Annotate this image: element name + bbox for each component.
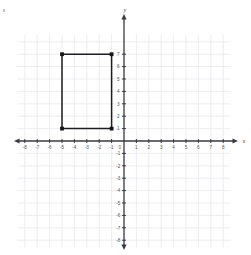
vertex-marker xyxy=(110,127,114,131)
y-tick-label: 4 xyxy=(117,89,120,94)
y-axis-arrow-up xyxy=(121,14,126,20)
x-tick-label: 5 xyxy=(185,145,188,150)
plot-area: -8-7-6-5-4-3-2-1012345678-8-7-6-5-4-3-2-… xyxy=(0,0,251,255)
x-tick-label: -4 xyxy=(72,145,77,150)
axis-names: xy xyxy=(123,7,246,145)
y-tick-label: 2 xyxy=(117,114,120,119)
y-tick-label: -4 xyxy=(116,188,121,193)
x-tick-label: -6 xyxy=(48,145,53,150)
x-tick-label: -5 xyxy=(60,145,65,150)
y-tick-label: -5 xyxy=(116,201,121,206)
x-tick-label: 2 xyxy=(148,145,151,150)
x-tick-label: -3 xyxy=(85,145,90,150)
y-tick-label: -3 xyxy=(116,176,121,181)
vertex-marker xyxy=(110,52,114,56)
x-axis-arrow-right xyxy=(233,138,239,143)
x-tick-label: 7 xyxy=(210,145,213,150)
x-tick-label: 6 xyxy=(197,145,200,150)
x-tick-label: -2 xyxy=(97,145,102,150)
y-tick-label: -7 xyxy=(116,226,121,231)
axis-lines xyxy=(14,14,238,250)
vertex-marker xyxy=(60,52,64,56)
y-tick-label: 1 xyxy=(117,126,120,131)
origin-label: 0 xyxy=(119,145,122,150)
x-tick-label: -1 xyxy=(110,145,115,150)
x-axis-name: x xyxy=(242,138,246,144)
y-tick-label: -1 xyxy=(116,151,121,156)
y-tick-label: -6 xyxy=(116,213,121,218)
y-tick-label: -2 xyxy=(116,164,121,169)
coordinate-plane-graph: -8-7-6-5-4-3-2-1012345678-8-7-6-5-4-3-2-… xyxy=(0,0,251,255)
x-tick-label: 4 xyxy=(172,145,175,150)
vertex-marker xyxy=(60,127,64,131)
y-axis-arrow-down xyxy=(121,245,126,251)
x-tick-label: 1 xyxy=(135,145,138,150)
y-tick-label: 7 xyxy=(117,52,120,57)
y-tick-label: 3 xyxy=(117,102,120,107)
y-axis-name: y xyxy=(123,7,127,13)
x-tick-label: 3 xyxy=(160,145,163,150)
y-tick-label: 5 xyxy=(117,77,120,82)
y-tick-label: -8 xyxy=(116,238,121,243)
x-tick-label: -7 xyxy=(35,145,40,150)
x-tick-label: -8 xyxy=(23,145,28,150)
y-tick-label: 6 xyxy=(117,64,120,69)
x-axis-arrow-left xyxy=(14,138,20,143)
x-tick-label: 8 xyxy=(222,145,225,150)
